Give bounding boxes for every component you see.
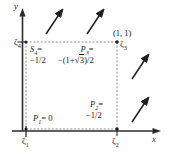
node-zeta1 [25, 128, 28, 131]
vector-field-square-figure: y x (1, 1) ζ4 ζ3 ζ1 ζ2 S4= −1/2 P3= −(1+… [0, 0, 170, 160]
y-axis-label: y [14, 1, 18, 11]
zeta1-subscript: 1 [26, 141, 29, 148]
tick-label-zeta1: ζ1 [22, 136, 29, 148]
zeta4-subscript: 4 [18, 42, 21, 49]
p1-equals: = 0 [41, 113, 52, 123]
p3-equals: = [89, 44, 94, 54]
p2-equals: = [98, 99, 103, 109]
vector-top-left [46, 9, 63, 34]
tick-label-zeta2: ζ2 [112, 136, 119, 148]
tick-label-zeta3: ζ3 [120, 39, 127, 51]
node-zeta3 [115, 40, 119, 44]
y-axis [19, 8, 25, 131]
node-value-p3-line2: −(1+√3)/2 [58, 56, 94, 65]
zeta2-subscript: 2 [116, 141, 119, 148]
node-value-s4-line2: −1/2 [30, 56, 46, 65]
node-value-p2: P2= −1/2 [86, 100, 103, 120]
p3-prefix: −(1+ [58, 55, 75, 65]
node-value-p3: P3= −(1+√3)/2 [58, 45, 94, 65]
corner-coordinate-label: (1, 1) [113, 29, 131, 38]
vector-top-right [87, 9, 104, 34]
node-zeta2 [115, 127, 119, 131]
vector-right-lower [132, 97, 149, 122]
node-value-p2-line2: −1/2 [86, 111, 103, 120]
node-zeta4 [25, 41, 28, 44]
s4-equals: = [37, 44, 42, 54]
p3-suffix: )/2 [84, 55, 93, 65]
sqrt-icon: √3 [75, 54, 85, 65]
vector-right-upper [132, 54, 149, 79]
x-axis-label: x [152, 134, 156, 144]
tick-label-zeta4: ζ4 [14, 37, 21, 49]
zeta3-subscript: 3 [124, 44, 127, 51]
node-value-s4: S4= −1/2 [30, 45, 46, 65]
node-value-p1: P1= 0 [33, 114, 52, 125]
